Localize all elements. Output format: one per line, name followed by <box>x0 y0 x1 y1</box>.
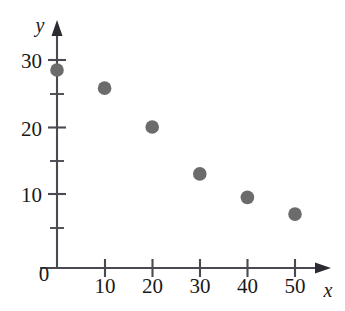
x-axis-arrow-icon <box>315 263 331 274</box>
data-point <box>193 167 207 181</box>
data-point <box>288 207 302 221</box>
y-tick-label-10: 10 <box>21 183 42 207</box>
data-point <box>145 120 159 134</box>
origin-label: 0 <box>39 262 50 286</box>
y-tick-label-30: 30 <box>21 49 42 73</box>
data-point-series <box>50 63 302 221</box>
x-tick-label-20: 20 <box>142 274 163 298</box>
x-tick-label-50: 50 <box>285 274 306 298</box>
x-tick-label-10: 10 <box>95 274 116 298</box>
data-point <box>241 191 255 205</box>
y-axis-arrow-icon <box>52 20 63 36</box>
x-axis-label: x <box>323 279 333 301</box>
data-point <box>98 81 112 95</box>
data-point <box>50 63 64 77</box>
y-tick-label-20: 20 <box>21 117 42 141</box>
y-axis-label: y <box>34 14 45 37</box>
scatter-plot-canvas: 30 20 10 10 20 30 40 50 0 y x <box>0 0 345 311</box>
scatter-plot-figure: 30 20 10 10 20 30 40 50 0 y x <box>0 0 345 311</box>
x-tick-label-40: 40 <box>237 274 258 298</box>
x-tick-label-30: 30 <box>190 274 211 298</box>
